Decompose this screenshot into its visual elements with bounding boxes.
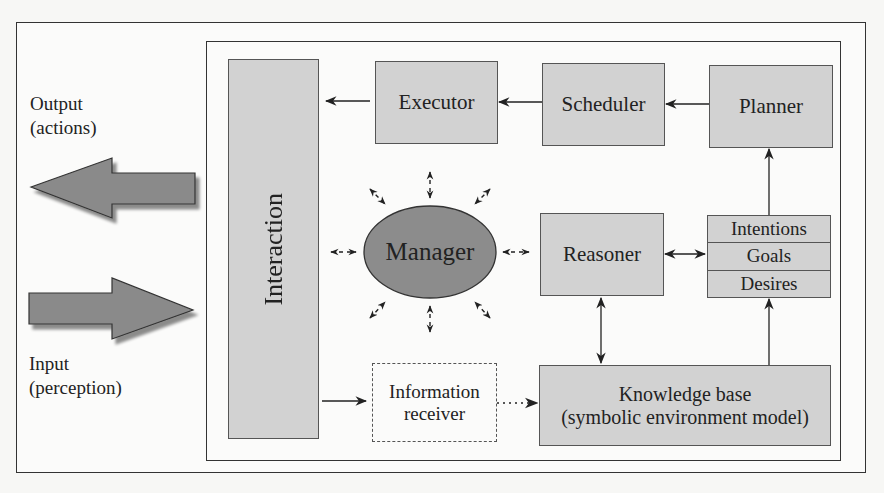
interaction-node[interactable]: Interaction (228, 59, 319, 439)
planner-node[interactable]: Planner (709, 65, 833, 148)
reasoner-node[interactable]: Reasoner (540, 213, 664, 296)
knowledge-base-node[interactable]: Knowledge base (symbolic environment mod… (539, 365, 831, 446)
goals-node[interactable]: Goals (708, 243, 830, 270)
scheduler-node[interactable]: Scheduler (542, 63, 665, 146)
manager-label: Manager (386, 238, 475, 266)
bdi-stack: Intentions Goals Desires (707, 215, 831, 298)
manager-node[interactable]: Manager (364, 206, 496, 298)
information-receiver-node[interactable]: Information receiver (372, 363, 497, 442)
input-arrow-icon (29, 278, 193, 339)
executor-node[interactable]: Executor (375, 61, 498, 144)
input-label: Input (perception) (29, 352, 122, 400)
interaction-label: Interaction (259, 193, 289, 306)
output-label: Output (actions) (30, 92, 96, 140)
output-arrow-icon (31, 158, 195, 218)
desires-node[interactable]: Desires (708, 271, 830, 297)
intentions-node[interactable]: Intentions (708, 216, 830, 243)
